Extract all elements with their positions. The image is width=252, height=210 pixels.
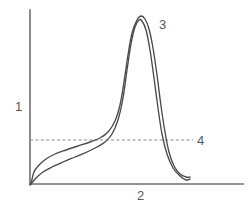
y-axis-label: 1 (15, 100, 22, 113)
peak-annotation-label: 3 (159, 18, 166, 31)
x-axis-label: 2 (137, 189, 144, 202)
plot-canvas (0, 0, 252, 210)
figure-root: 1 2 3 4 (0, 0, 252, 210)
curve-lower-trace (31, 19, 190, 184)
threshold-annotation-label: 4 (197, 134, 204, 147)
curve-upper-trace (31, 16, 190, 184)
